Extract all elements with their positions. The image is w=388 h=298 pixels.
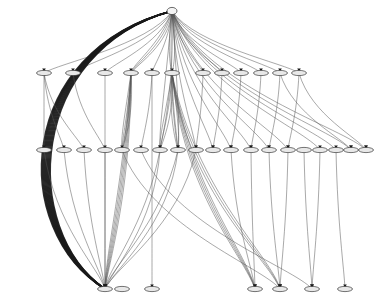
- graph-node[interactable]: [165, 70, 180, 75]
- graph-node[interactable]: [171, 147, 186, 152]
- graph-node[interactable]: [234, 70, 249, 75]
- graph-node[interactable]: [297, 147, 312, 152]
- graph-node[interactable]: [215, 70, 230, 75]
- graph-edge: [269, 73, 280, 150]
- graph-node[interactable]: [281, 147, 296, 152]
- graph-node[interactable]: [244, 147, 259, 152]
- graph-edge: [336, 150, 345, 289]
- graph-node[interactable]: [66, 70, 81, 75]
- graph-node[interactable]: [329, 147, 344, 152]
- graph-edge: [213, 73, 222, 150]
- hierarchy-graph: [0, 0, 388, 298]
- graph-node[interactable]: [115, 147, 130, 152]
- graph-edge: [141, 150, 312, 289]
- graph-node[interactable]: [98, 286, 113, 291]
- graph-node[interactable]: [77, 147, 92, 152]
- graph-node[interactable]: [37, 70, 52, 75]
- graph-node[interactable]: [206, 147, 221, 152]
- graph-node[interactable]: [145, 70, 160, 75]
- graph-node[interactable]: [359, 147, 374, 152]
- graph-root-node[interactable]: [167, 7, 177, 14]
- graph-node[interactable]: [98, 70, 113, 75]
- graph-canvas: [0, 0, 388, 298]
- graph-edge: [251, 73, 261, 150]
- graph-edge: [105, 73, 131, 289]
- graph-node[interactable]: [153, 147, 168, 152]
- graph-edge: [172, 11, 231, 150]
- graph-edge: [172, 11, 366, 150]
- graph-node[interactable]: [338, 286, 353, 291]
- graph-node[interactable]: [313, 147, 328, 152]
- graph-edge: [172, 73, 255, 289]
- graph-node[interactable]: [189, 147, 204, 152]
- graph-node[interactable]: [273, 70, 288, 75]
- graph-edge: [304, 150, 312, 289]
- graph-edge: [172, 73, 255, 289]
- graph-node[interactable]: [224, 147, 239, 152]
- graph-node[interactable]: [57, 147, 72, 152]
- graph-edge: [172, 73, 280, 289]
- graph-node[interactable]: [292, 70, 307, 75]
- graph-node[interactable]: [196, 70, 211, 75]
- graph-edge: [172, 73, 255, 289]
- graph-node[interactable]: [254, 70, 269, 75]
- graph-edge: [172, 73, 280, 289]
- graph-node[interactable]: [344, 147, 359, 152]
- graph-edge: [269, 150, 280, 289]
- graph-node[interactable]: [305, 286, 320, 291]
- graph-edge: [172, 73, 255, 289]
- graph-edge: [231, 73, 241, 150]
- graph-node[interactable]: [115, 286, 130, 291]
- graph-edge: [172, 73, 280, 289]
- graph-edge: [84, 150, 105, 289]
- node-layer: [37, 7, 374, 291]
- graph-node[interactable]: [262, 147, 277, 152]
- graph-edge: [172, 11, 320, 150]
- graph-node[interactable]: [134, 147, 149, 152]
- graph-edge: [172, 11, 351, 150]
- graph-edge: [299, 73, 366, 150]
- graph-edge: [288, 73, 299, 150]
- graph-edge: [64, 150, 105, 289]
- graph-edge: [312, 150, 320, 289]
- graph-edge: [280, 150, 288, 289]
- graph-node[interactable]: [145, 286, 160, 291]
- graph-edge: [73, 73, 105, 150]
- graph-node[interactable]: [98, 147, 113, 152]
- graph-edge: [251, 150, 255, 289]
- graph-node[interactable]: [37, 147, 52, 152]
- graph-edge: [280, 73, 351, 150]
- graph-node[interactable]: [124, 70, 139, 75]
- graph-edge: [141, 73, 152, 150]
- graph-node[interactable]: [273, 286, 288, 291]
- graph-node[interactable]: [248, 286, 263, 291]
